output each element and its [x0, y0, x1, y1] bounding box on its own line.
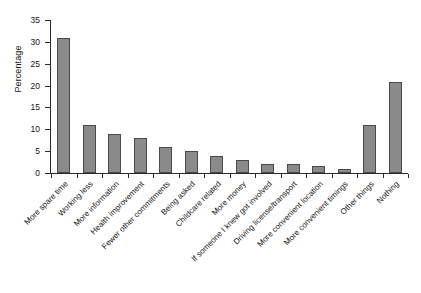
y-axis-tick-label: 5: [0, 147, 40, 156]
bar: [389, 82, 402, 173]
bar: [159, 147, 172, 173]
bar: [108, 134, 121, 173]
x-axis-tick: [230, 174, 231, 178]
x-axis-tick: [204, 174, 205, 178]
y-axis-tick-label: 15: [0, 103, 40, 112]
x-axis-tick: [306, 174, 307, 178]
y-axis-tick: [45, 107, 50, 108]
bar: [363, 125, 376, 173]
bar: [57, 38, 70, 173]
x-axis-tick: [332, 174, 333, 178]
x-axis-tick: [281, 174, 282, 178]
bar-chart-figure: Percentage 05101520253035 More spare tim…: [0, 0, 421, 293]
x-axis-tick: [408, 174, 409, 178]
y-axis-tick: [45, 86, 50, 87]
y-axis-tick: [45, 173, 50, 174]
x-axis-tick: [255, 174, 256, 178]
x-axis-tick: [128, 174, 129, 178]
x-axis-tick: [102, 174, 103, 178]
y-axis-tick-label: 0: [0, 169, 40, 178]
bar: [287, 164, 300, 173]
y-axis-tick: [45, 129, 50, 130]
y-axis-tick-label: 25: [0, 60, 40, 69]
x-axis-line: [50, 173, 408, 174]
y-axis-tick-label: 10: [0, 125, 40, 134]
bar: [261, 164, 274, 173]
x-axis-tick: [51, 174, 52, 178]
x-axis-tick: [383, 174, 384, 178]
y-axis-tick: [45, 42, 50, 43]
bar: [312, 166, 325, 173]
bar: [83, 125, 96, 173]
bar: [134, 138, 147, 173]
bar: [210, 156, 223, 173]
y-axis-tick-label: 30: [0, 38, 40, 47]
x-axis-tick: [179, 174, 180, 178]
y-axis-tick-label: 20: [0, 82, 40, 91]
x-axis-tick: [153, 174, 154, 178]
y-axis-line: [50, 20, 51, 173]
y-axis-tick: [45, 20, 50, 21]
x-axis-tick: [77, 174, 78, 178]
y-axis-tick-label: 35: [0, 16, 40, 25]
y-axis-tick: [45, 151, 50, 152]
bar: [236, 160, 249, 173]
bar: [185, 151, 198, 173]
x-axis-tick: [357, 174, 358, 178]
y-axis-tick: [45, 64, 50, 65]
bar: [338, 169, 351, 173]
